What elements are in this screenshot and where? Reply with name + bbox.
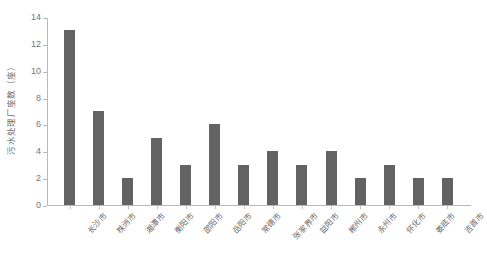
y-tick-label: 4 [36, 146, 41, 156]
y-tick-label: 12 [31, 39, 41, 49]
y-axis-title: 污水处理厂座数（座） [0, 0, 18, 215]
x-tick-label: 株洲市 [113, 210, 138, 235]
bar [151, 138, 162, 205]
y-tick-mark [43, 152, 47, 153]
x-tick-label: 吉首市 [461, 210, 486, 235]
x-tick-label: 湘潭市 [142, 210, 167, 235]
bar [326, 151, 337, 205]
x-tick-label: 怀化市 [403, 210, 428, 235]
y-tick-label: 10 [31, 66, 41, 76]
y-tick-label: 2 [36, 173, 41, 183]
y-tick-label: 6 [36, 119, 41, 129]
y-axis-line [47, 18, 48, 206]
x-tick-label: 岳阳市 [229, 210, 254, 235]
bar [267, 151, 278, 205]
x-axis-labels: 长沙市株洲市湘潭市衡阳市邵阳市岳阳市常德市张家界市益阳市郴州市永州市怀化市娄底市… [47, 206, 471, 264]
bar [413, 178, 424, 205]
bar [384, 165, 395, 205]
bar [355, 178, 366, 205]
x-tick-label: 永州市 [374, 210, 399, 235]
bar [238, 165, 249, 205]
x-tick-label: 娄底市 [432, 210, 457, 235]
y-tick-label: 8 [36, 93, 41, 103]
bar [93, 111, 104, 205]
x-tick-label: 张家界市 [290, 210, 321, 241]
x-tick-label: 衡阳市 [171, 210, 196, 235]
y-tick-label: 0 [36, 200, 41, 210]
y-tick-mark [43, 99, 47, 100]
plot-area: 02468101214 [47, 18, 471, 206]
y-tick-mark [43, 179, 47, 180]
y-tick-mark [43, 125, 47, 126]
bar [180, 165, 191, 205]
x-tick-label: 益阳市 [316, 210, 341, 235]
y-axis-title-text: 污水处理厂座数（座） [3, 61, 15, 154]
y-tick-mark [43, 72, 47, 73]
bar [296, 165, 307, 205]
y-tick-label: 14 [31, 12, 41, 22]
bar [209, 124, 220, 205]
x-tick-label: 长沙市 [84, 210, 109, 235]
y-tick-mark [43, 18, 47, 19]
x-tick-label: 常德市 [258, 210, 283, 235]
bar [64, 30, 75, 205]
bar [442, 178, 453, 205]
x-tick-label: 邵阳市 [200, 210, 225, 235]
bar [122, 178, 133, 205]
y-tick-mark [43, 45, 47, 46]
x-tick-label: 郴州市 [345, 210, 370, 235]
